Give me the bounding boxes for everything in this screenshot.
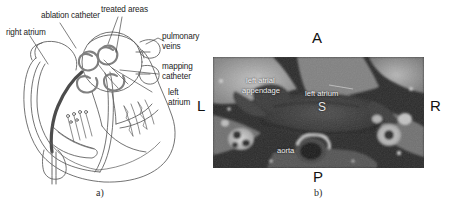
papillary-dot-6	[76, 119, 79, 122]
treated-area-loop-2	[98, 46, 117, 65]
ct-label-aorta: aorta	[277, 146, 294, 155]
lv-wall-upper	[116, 104, 152, 124]
caption-panel-b: b)	[314, 187, 322, 198]
rv-trabecula-3	[80, 114, 86, 138]
apex-wall	[50, 142, 98, 170]
leader-right-atrium	[30, 36, 48, 64]
papillary-dot-1	[67, 115, 70, 118]
label-treated-areas: treated areas	[101, 5, 148, 15]
rv-trabecula-2	[74, 116, 80, 140]
trabecula-2	[131, 104, 140, 134]
mitral-leaflet-1	[92, 92, 102, 126]
orientation-right: R	[430, 97, 441, 114]
caption-panel-a: a)	[96, 187, 104, 198]
ct-label-left-atrial-appendage-line2: appendage	[242, 86, 280, 95]
vessel-speck-2	[227, 107, 231, 111]
label-pulmonary-veins-line2: veins	[162, 42, 181, 52]
label-mapping-catheter-line2: catheter	[162, 72, 191, 82]
right-atrium-wall	[35, 41, 77, 70]
label-left-atrium-line2: atrium	[168, 98, 190, 108]
left-hilar-vessels	[228, 128, 254, 150]
vessel-speck-1	[219, 79, 223, 83]
vessel-speck-7	[351, 159, 354, 162]
papillary-dot-2	[73, 113, 76, 116]
vessel-speck-4	[409, 87, 413, 91]
label-right-atrium: right atrium	[6, 28, 46, 38]
figure-container: ablation catheter treated areas right at…	[0, 0, 454, 215]
papillary-dot-5	[70, 121, 73, 124]
rv-inner	[58, 132, 94, 149]
ct-label-left-atrial-appendage-line1: left atrial	[246, 76, 275, 85]
vessel-right-upper	[398, 113, 412, 125]
vessel-right-small	[372, 115, 382, 123]
leader-treated-areas-2	[116, 17, 122, 52]
rv-trabecula-4	[86, 114, 92, 136]
pulmonary-vein-inferior	[139, 65, 159, 84]
vessel-speck-5	[397, 151, 401, 155]
hilar-lumen-3	[232, 142, 238, 148]
right-chamber-inner-2	[37, 64, 51, 145]
leader-treated-areas-1	[108, 17, 118, 44]
label-ablation-catheter: ablation catheter	[41, 11, 100, 21]
leader-left-atrium	[112, 68, 152, 92]
aorta-lumen	[300, 142, 322, 160]
mapping-wire-2	[104, 60, 128, 84]
papillary-dot-4	[85, 111, 88, 114]
ct-superior-marker: S	[318, 100, 326, 114]
trabecula-zig-2	[138, 102, 147, 129]
orientation-posterior: P	[313, 168, 323, 185]
descending-aorta-lumen	[384, 130, 394, 140]
inferior-vena-cava	[43, 150, 67, 179]
hilar-lumen-1	[233, 131, 241, 139]
panel-a-heart-diagram: ablation catheter treated areas right at…	[0, 0, 215, 215]
vessel-left-small	[221, 120, 229, 127]
vessel-speck-6	[269, 159, 273, 163]
orientation-anterior: A	[312, 29, 322, 46]
label-mapping-catheter-line1: mapping	[162, 62, 193, 72]
label-left-atrium-line1: left	[168, 88, 179, 98]
mitral-leaflet-2	[112, 92, 116, 124]
orientation-left: L	[197, 97, 205, 114]
papillary-dot-3	[79, 111, 82, 114]
trabecula-4	[145, 100, 154, 124]
trabecula-3	[138, 102, 147, 129]
ct-label-left-atrium: left atrium	[305, 89, 338, 98]
hilar-lumen-2	[242, 140, 250, 147]
